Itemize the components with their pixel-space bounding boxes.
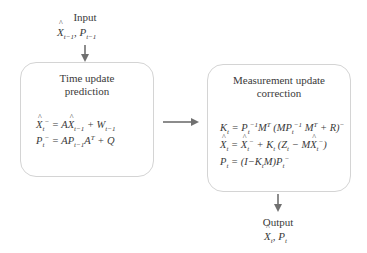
input-vars: Xt−1, Pt−1	[57, 26, 96, 38]
output-label: Output	[248, 216, 308, 228]
measurement-update-equation-state: Xt = Xt− + Kt (Zt − MXt−)	[220, 139, 327, 151]
input-label: Input	[55, 11, 115, 23]
time-update-box: Time update prediction Xt− = AXt−1 + Wt−…	[20, 62, 154, 177]
time-update-subtitle: prediction	[21, 85, 153, 98]
measurement-update-box: Measurement update correction Kt = Pt−1M…	[207, 64, 351, 192]
output-vars: Xt, Pt	[264, 230, 287, 242]
measurement-update-title: Measurement update	[208, 74, 350, 87]
measurement-update-equation-covariance: Pt = (I−KtM)Pt−	[220, 156, 289, 168]
measurement-update-subtitle: correction	[208, 87, 350, 100]
time-update-title: Time update	[21, 72, 153, 85]
time-update-equation-state: Xt− = AXt−1 + Wt−1	[36, 119, 116, 131]
measurement-update-equation-gain: Kt = Pt−1MT (MPt−1 MT + R)−	[220, 122, 344, 134]
time-update-equation-covariance: Pt− = APt−1AT + Q	[36, 135, 115, 147]
